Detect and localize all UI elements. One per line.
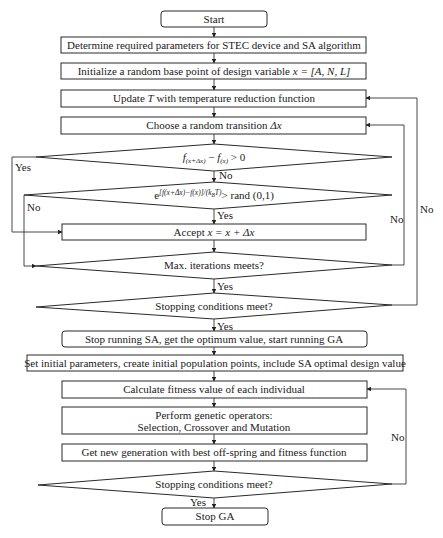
determine-params-node: Determine required parameters for STEC d… (61, 37, 366, 53)
initialize-label: Initialize a random base point of design… (78, 65, 351, 77)
stop-ga-node: Stop GA (162, 508, 268, 525)
stop-conditions-sa-label: Stopping conditions meet? (155, 300, 272, 312)
max-iterations-node: Max. iterations meets? (36, 252, 392, 279)
label-stop-cond-ga-no: No (391, 431, 405, 443)
new-generation-node: Get new generation with best off-spring … (62, 444, 367, 461)
set-initial-node: Set initial parameters, create initial p… (24, 355, 406, 371)
update-temperature-node: Update T with temperature reduction func… (61, 90, 366, 107)
stop-sa-label: Stop running SA, get the optimum value, … (85, 333, 343, 345)
update-temperature-label: Update T with temperature reduction func… (113, 92, 315, 104)
choose-transition-node: Choose a random transition Δx (61, 117, 366, 134)
label-stop-cond-ga-yes: Yes (190, 496, 206, 508)
label-stop-cond-sa-yes: Yes (217, 320, 233, 332)
calc-fitness-node: Calculate fitness value of each individu… (62, 381, 367, 398)
start-node: Start (161, 11, 267, 27)
set-initial-label: Set initial parameters, create initial p… (24, 357, 406, 369)
start-label: Start (204, 13, 225, 25)
decision-f-node: f(x+Δx) − f(x) > 0 (36, 144, 392, 171)
new-generation-label: Get new generation with best off-spring … (82, 446, 347, 458)
arrow-stop-cond-sa-no (366, 98, 417, 305)
flowchart: Start Determine required parameters for … (0, 0, 443, 538)
accept-node: Accept x = x + Δx (62, 224, 366, 240)
label-decision-exp-yes: Yes (217, 209, 233, 221)
label-decision-f-no: No (219, 169, 233, 181)
choose-transition-label: Choose a random transition Δx (146, 119, 282, 131)
genetic-operators-line2: Selection, Crossover and Mutation (138, 421, 291, 433)
label-stop-cond-sa-no: No (420, 203, 434, 215)
genetic-operators-line1: Perform genetic operators: (155, 409, 272, 421)
determine-params-label: Determine required parameters for STEC d… (67, 39, 361, 51)
genetic-operators-node: Perform genetic operators: Selection, Cr… (62, 407, 367, 434)
decision-exp-node: e[f(x+Δx)−f(x)]/(kBT)> rand (0,1) (24, 182, 392, 209)
calc-fitness-label: Calculate fitness value of each individu… (123, 383, 305, 395)
label-decision-f-yes: Yes (15, 161, 31, 173)
label-max-iter-yes: Yes (217, 280, 233, 292)
stop-conditions-ga-label: Stopping conditions meet? (155, 478, 272, 490)
initialize-node: Initialize a random base point of design… (61, 63, 366, 79)
accept-label: Accept x = x + Δx (174, 226, 255, 238)
stop-ga-label: Stop GA (196, 510, 235, 522)
stop-sa-node: Stop running SA, get the optimum value, … (62, 331, 367, 347)
label-max-iter-no: No (390, 213, 404, 225)
stop-conditions-sa-node: Stopping conditions meet? (36, 293, 392, 319)
stop-conditions-ga-node: Stopping conditions meet? (38, 471, 392, 498)
max-iterations-label: Max. iterations meets? (164, 259, 264, 271)
label-decision-exp-no: No (27, 201, 41, 213)
